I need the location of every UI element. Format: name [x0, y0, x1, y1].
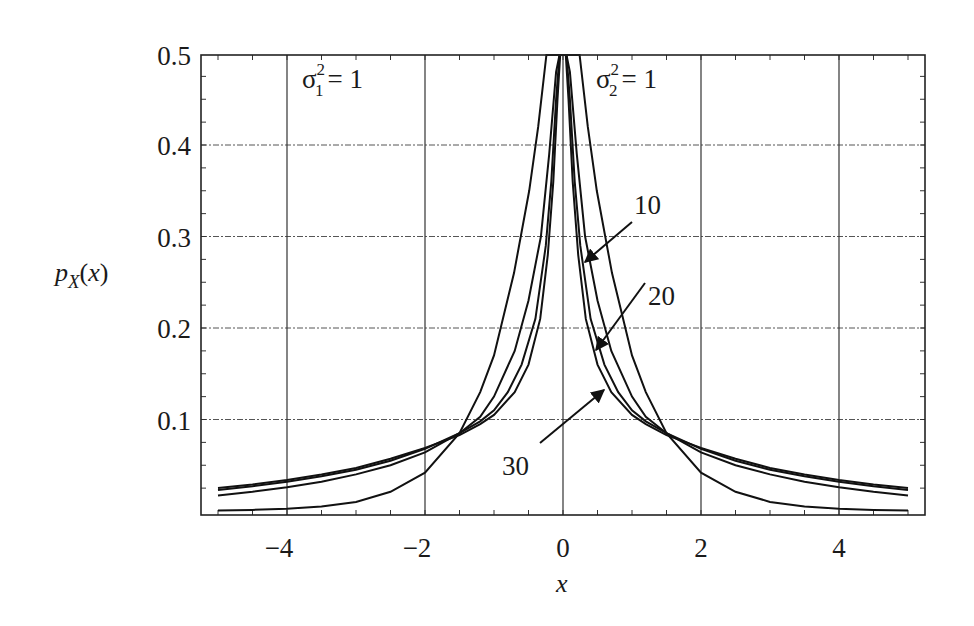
- y-axis-label-p: p: [53, 258, 68, 287]
- arrow-20: [596, 283, 645, 350]
- arrow-30: [540, 390, 604, 443]
- x-tick-labels: −4−2024: [265, 533, 847, 563]
- y-axis-label-x: x: [87, 258, 100, 287]
- y-axis-label: pX(x): [53, 258, 109, 292]
- y-tick-label: 0.3: [157, 223, 191, 253]
- x-tick-label: −2: [403, 533, 432, 563]
- arrow-label-20: 20: [648, 281, 675, 311]
- y-tick-label: 0.4: [157, 131, 191, 161]
- y-axis-label-arg: (: [80, 258, 89, 287]
- y-tick-labels: 0.10.20.30.40.5: [157, 41, 191, 436]
- x-axis-label: x: [555, 569, 568, 598]
- y-tick-label: 0.5: [157, 41, 191, 71]
- x-tick-label: −4: [265, 533, 294, 563]
- sigma-annotation: σ22= 1: [596, 60, 657, 100]
- y-axis-label-close: ): [100, 258, 109, 287]
- annotations: σ21= 1σ22= 1: [302, 60, 657, 100]
- x-tick-label: 2: [694, 533, 708, 563]
- chart: 0.10.20.30.40.5 −4−2024 pX(x) x σ21= 1σ2…: [0, 0, 974, 626]
- x-tick-label: 4: [832, 533, 846, 563]
- y-tick-label: 0.2: [157, 314, 191, 344]
- y-tick-label: 0.1: [157, 406, 191, 436]
- grid: [201, 55, 925, 515]
- sigma-annotation: σ21= 1: [302, 60, 363, 100]
- arrows: 102030: [502, 190, 675, 481]
- x-tick-label: 0: [556, 533, 570, 563]
- arrow-label-10: 10: [634, 190, 661, 220]
- arrow-label-30: 30: [502, 451, 529, 481]
